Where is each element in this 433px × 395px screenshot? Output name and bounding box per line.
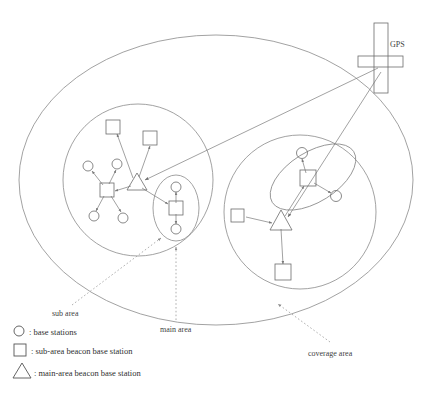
node-triangle-right-main-beacon bbox=[270, 210, 292, 230]
sub-area-label: sub area bbox=[52, 309, 79, 318]
node-circle-right-subarea-top bbox=[297, 148, 308, 159]
node-square-left-top-2 bbox=[143, 131, 157, 145]
node-square-left-subarea bbox=[169, 201, 183, 215]
region-right-sub-area bbox=[259, 130, 367, 223]
node-square-left-hub bbox=[100, 183, 114, 197]
node-triangle-left-main-beacon bbox=[127, 173, 147, 190]
right-cluster-links bbox=[246, 159, 331, 264]
node-circle-left-2 bbox=[112, 159, 122, 169]
legend: : base stations : sub-area beacon base s… bbox=[13, 326, 141, 378]
diagram-canvas: GPS sub area main area coverage area : b… bbox=[0, 0, 433, 395]
node-square-right-subarea bbox=[300, 170, 316, 186]
node-square-left-top-1 bbox=[106, 120, 120, 134]
gps-label: GPS bbox=[390, 40, 405, 49]
legend-label-main-area-beacon: : main-area beacon base station bbox=[34, 368, 141, 378]
left-cluster-links bbox=[92, 134, 176, 224]
node-circle-left-subarea-top bbox=[171, 182, 181, 192]
node-circle-left-4 bbox=[118, 213, 128, 223]
network-diagram-svg: GPS sub area main area coverage area : b… bbox=[0, 0, 433, 395]
legend-item-sub-area-beacon: : sub-area beacon base station bbox=[14, 344, 133, 356]
main-area-label: main area bbox=[160, 325, 192, 334]
legend-item-base-stations: : base stations bbox=[14, 326, 77, 337]
gps-link-right bbox=[288, 72, 381, 217]
region-left-sub-area bbox=[153, 175, 199, 241]
legend-triangle-icon bbox=[13, 363, 31, 378]
legend-item-main-area-beacon: : main-area beacon base station bbox=[13, 363, 141, 378]
node-square-right-bottom bbox=[275, 264, 291, 280]
node-square-right-left bbox=[231, 209, 244, 222]
legend-label-sub-area-beacon: : sub-area beacon base station bbox=[31, 346, 133, 356]
legend-label-base-stations: : base stations bbox=[29, 327, 77, 337]
region-coverage-area bbox=[19, 35, 413, 325]
legend-circle-icon bbox=[14, 326, 24, 336]
node-circle-right-subarea-bottom bbox=[331, 191, 342, 202]
gps-link-left bbox=[145, 68, 378, 180]
leader-sub-area bbox=[72, 238, 161, 305]
node-circle-left-1 bbox=[83, 161, 93, 171]
legend-square-icon bbox=[14, 344, 26, 356]
node-circle-left-subarea-bottom bbox=[171, 224, 181, 234]
gps-antenna-icon bbox=[358, 23, 403, 93]
coverage-area-label: coverage area bbox=[308, 349, 353, 358]
node-circle-left-3 bbox=[89, 211, 99, 221]
